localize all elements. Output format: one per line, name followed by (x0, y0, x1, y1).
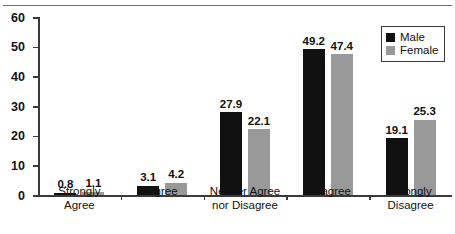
legend-label-male: Male (400, 32, 425, 44)
y-tick-10: 10 (33, 165, 38, 167)
bar-female-0: 1.1 (82, 17, 104, 195)
bar-value-label: 27.9 (220, 99, 242, 111)
legend-item-male: Male (386, 32, 438, 44)
y-tick-60: 60 (33, 17, 38, 19)
bar-male-2: 27.9 (220, 17, 242, 195)
bar-value-label: 49.2 (303, 36, 325, 48)
y-tick-50: 50 (33, 47, 38, 49)
bar-value-label: 3.1 (140, 172, 156, 184)
bar-male-3: 49.2 (303, 17, 325, 195)
y-tick-40: 40 (33, 76, 38, 78)
bar-rect: 47.4 (331, 54, 353, 195)
y-tick-20: 20 (33, 136, 38, 138)
legend-swatch-male-icon (386, 33, 395, 42)
bar-male-1: 3.1 (137, 17, 159, 195)
category-label-3: Disagree (286, 184, 369, 198)
bar-group-1: 3.14.2 (137, 17, 187, 195)
category-label-4: Strongly Disagree (369, 184, 452, 213)
category-label-0: Strongly Agree (38, 184, 121, 213)
bar-female-3: 47.4 (331, 17, 353, 195)
bar-rect: 49.2 (303, 49, 325, 195)
y-tick-label-40: 40 (11, 71, 25, 84)
bar-group-3: 49.247.4 (303, 17, 353, 195)
bar-male-0: 0.8 (54, 17, 76, 195)
y-tick-label-60: 60 (11, 12, 25, 25)
y-tick-label-0: 0 (18, 190, 25, 203)
bar-value-label: 19.1 (385, 125, 407, 137)
bar-chart: 0102030405060 0.81.13.14.227.922.149.247… (0, 0, 455, 234)
bar-rect: 27.9 (220, 112, 242, 195)
bar-group-2: 27.922.1 (220, 17, 270, 195)
y-axis-line (38, 17, 40, 195)
legend-label-female: Female (400, 45, 438, 57)
legend-swatch-female-icon (386, 46, 395, 55)
y-tick-label-20: 20 (11, 130, 25, 143)
bar-female-1: 4.2 (165, 17, 187, 195)
bar-value-label: 4.2 (168, 169, 184, 181)
y-tick-label-10: 10 (11, 160, 25, 173)
bar-female-2: 22.1 (248, 17, 270, 195)
y-tick-30: 30 (33, 106, 38, 108)
bar-group-0: 0.81.1 (54, 17, 104, 195)
bar-value-label: 25.3 (413, 106, 435, 118)
bar-value-label: 47.4 (331, 41, 353, 53)
legend-item-female: Female (386, 45, 438, 57)
top-divider-rule (3, 5, 452, 6)
y-tick-label-30: 30 (11, 101, 25, 114)
bar-value-label: 22.1 (248, 116, 270, 128)
chart-legend: Male Female (381, 26, 445, 62)
y-tick-label-50: 50 (11, 41, 25, 54)
category-label-1: Agree (121, 184, 204, 198)
category-label-2: Neither Agree nor Disagree (204, 184, 287, 213)
